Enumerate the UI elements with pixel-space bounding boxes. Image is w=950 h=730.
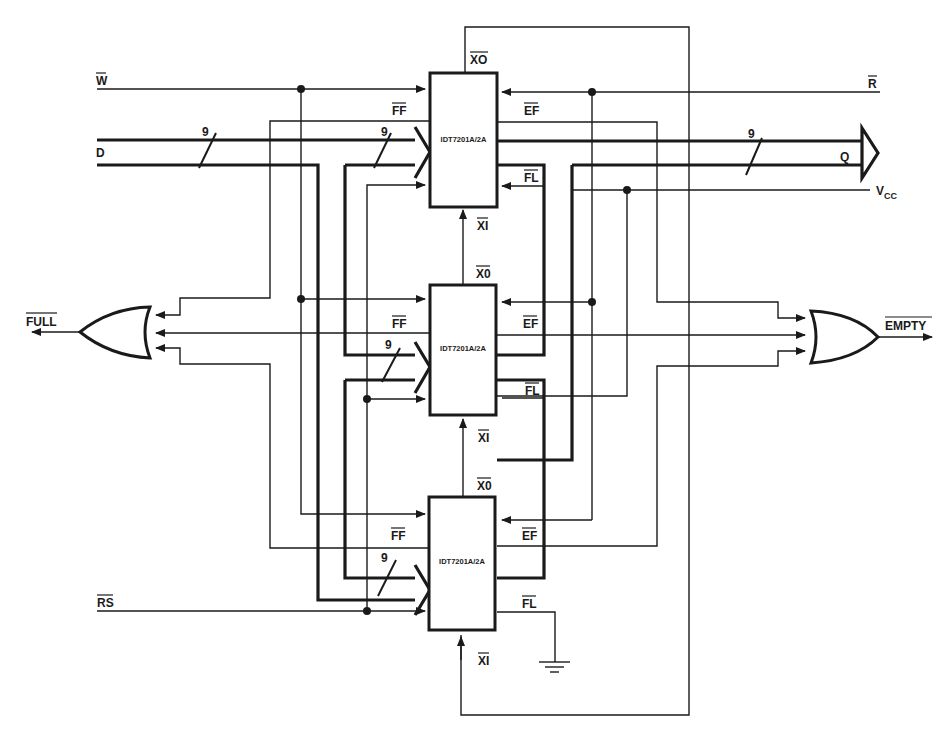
reset-label: RS — [97, 596, 114, 610]
svg-text:FF: FF — [392, 317, 407, 331]
reset-line — [97, 185, 425, 615]
bus-width-label: 9 — [381, 125, 388, 139]
read-label: R — [868, 77, 877, 91]
empty-label: EMPTY — [885, 319, 926, 333]
fifo-chip-bottom: IDT7201A/2A — [429, 497, 495, 630]
svg-text:XO: XO — [470, 53, 487, 67]
svg-text:IDT7201A/2A: IDT7201A/2A — [439, 557, 485, 566]
fifo-chip-top: IDT7201A/2A — [430, 73, 497, 207]
svg-text:FL: FL — [522, 597, 537, 611]
data-input-bus — [97, 127, 430, 615]
data-in-label: D — [96, 146, 105, 160]
svg-text:XI: XI — [478, 431, 489, 445]
read-line — [502, 88, 880, 140]
svg-text:EF: EF — [524, 104, 539, 118]
vcc-line — [497, 186, 870, 396]
svg-text:XI: XI — [477, 219, 488, 233]
bus-width-label: 9 — [748, 127, 755, 141]
bus-width-label: 9 — [385, 338, 392, 352]
bus-width-label: 9 — [202, 125, 209, 139]
svg-text:XI: XI — [478, 654, 489, 668]
svg-text:IDT7201A/2A: IDT7201A/2A — [440, 344, 486, 353]
full-label: FULL — [26, 315, 57, 329]
svg-text:IDT7201A/2A: IDT7201A/2A — [441, 135, 487, 144]
svg-text:X0: X0 — [476, 267, 491, 281]
bus-width-label: 9 — [381, 551, 388, 565]
vcc-subscript: CC — [884, 191, 897, 201]
svg-text:EF: EF — [523, 317, 538, 331]
fifo-chip-middle: IDT7201A/2A — [430, 285, 496, 415]
vcc-label: V — [876, 184, 884, 198]
svg-text:FF: FF — [391, 529, 406, 543]
read-distribution — [502, 140, 596, 520]
svg-text:X0: X0 — [477, 479, 492, 493]
fifo-depth-expansion-schematic: 9 9 9 9 9 — [0, 0, 950, 730]
svg-text:FL: FL — [525, 384, 540, 398]
data-out-label: Q — [840, 150, 849, 164]
svg-text:FL: FL — [524, 171, 539, 185]
write-line — [97, 85, 425, 140]
svg-text:EF: EF — [522, 529, 537, 543]
svg-text:FF: FF — [392, 104, 407, 118]
write-label: W — [96, 74, 108, 88]
